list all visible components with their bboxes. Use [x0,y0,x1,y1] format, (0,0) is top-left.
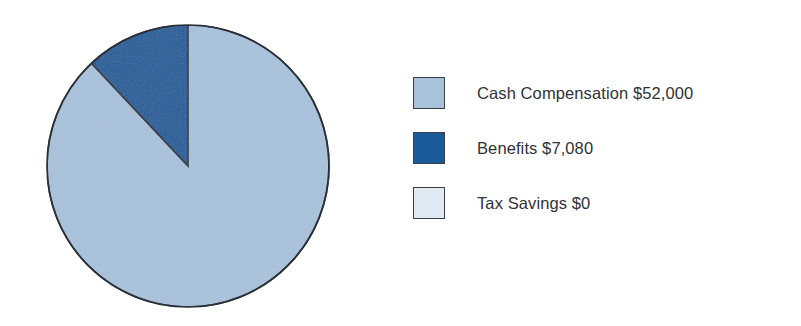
legend-item-tax-savings[interactable]: Tax Savings $0 [413,180,793,235]
pie-chart-area [0,0,380,326]
legend-swatch-cash-compensation-icon [413,77,445,109]
legend-swatch-benefits-icon [413,132,445,164]
legend-swatch-tax-savings-icon [413,187,445,219]
legend-label-cash-compensation: Cash Compensation $52,000 [477,83,693,103]
chart-legend: Cash Compensation $52,000 Benefits $7,08… [413,70,793,235]
legend-item-cash-compensation[interactable]: Cash Compensation $52,000 [413,70,793,125]
legend-label-benefits: Benefits $7,080 [477,138,593,158]
legend-label-tax-savings: Tax Savings $0 [477,193,590,213]
pie-chart-svg [0,0,380,326]
legend-item-benefits[interactable]: Benefits $7,080 [413,125,793,180]
pie-chart-figure: Cash Compensation $52,000 Benefits $7,08… [0,0,801,326]
